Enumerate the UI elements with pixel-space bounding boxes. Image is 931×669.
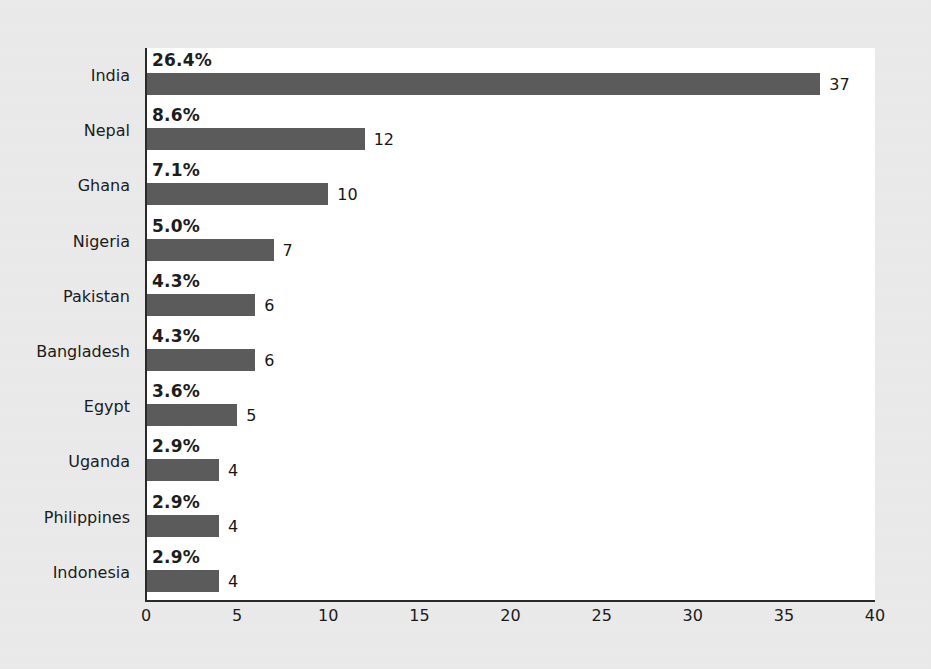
bar-percent-label: 26.4% (152, 50, 212, 70)
category-label-ghana: Ghana (0, 158, 138, 213)
category-label-text: Nepal (84, 121, 138, 140)
x-tick-label: 10 (318, 606, 338, 625)
bar-percent-label: 4.3% (152, 271, 200, 291)
bar-value-label: 10 (337, 185, 357, 204)
scanned-page: IndiaNepalGhanaNigeriaPakistanBangladesh… (0, 0, 931, 669)
category-label-nigeria: Nigeria (0, 214, 138, 269)
bar-value-label: 7 (283, 241, 293, 260)
bar-row: 7.1%10 (146, 158, 875, 213)
x-tick-label: 20 (500, 606, 520, 625)
category-label-philippines: Philippines (0, 490, 138, 545)
category-label-text: Ghana (78, 176, 138, 195)
bar-value-label: 6 (264, 296, 274, 315)
bar-percent-label: 5.0% (152, 216, 200, 236)
bar-percent-label: 7.1% (152, 160, 200, 180)
bar-uganda (146, 459, 219, 481)
category-label-uganda: Uganda (0, 434, 138, 489)
x-tick-label: 35 (774, 606, 794, 625)
bar-percent-label: 3.6% (152, 381, 200, 401)
y-axis-line (145, 48, 147, 601)
bar-row: 2.9%4 (146, 434, 875, 489)
category-label-text: India (91, 66, 138, 85)
bar-row: 5.0%7 (146, 214, 875, 269)
category-label-text: Egypt (84, 397, 138, 416)
bar-philippines (146, 515, 219, 537)
x-tick-label: 5 (232, 606, 242, 625)
x-axis-line (145, 600, 875, 602)
category-label-text: Pakistan (63, 287, 138, 306)
category-label-text: Uganda (68, 452, 138, 471)
x-tick-label: 40 (865, 606, 885, 625)
bar-percent-label: 2.9% (152, 436, 200, 456)
bar-percent-label: 8.6% (152, 105, 200, 125)
x-tick-label: 15 (409, 606, 429, 625)
bar-india (146, 73, 820, 95)
bar-bangladesh (146, 349, 255, 371)
bar-row: 4.3%6 (146, 324, 875, 379)
bar-row: 3.6%5 (146, 379, 875, 434)
bar-value-label: 37 (829, 75, 849, 94)
category-label-egypt: Egypt (0, 379, 138, 434)
category-label-bangladesh: Bangladesh (0, 324, 138, 379)
bar-value-label: 6 (264, 351, 274, 370)
category-label-text: Philippines (44, 508, 138, 527)
bar-value-label: 4 (228, 517, 238, 536)
category-label-text: Bangladesh (36, 342, 138, 361)
bar-pakistan (146, 294, 255, 316)
bar-percent-label: 4.3% (152, 326, 200, 346)
bar-indonesia (146, 570, 219, 592)
category-axis-labels: IndiaNepalGhanaNigeriaPakistanBangladesh… (0, 48, 138, 600)
x-axis-tick-labels: 0510152025303540 (146, 606, 875, 636)
x-tick-label: 0 (141, 606, 151, 625)
bar-value-label: 4 (228, 572, 238, 591)
bar-nigeria (146, 239, 274, 261)
category-label-nepal: Nepal (0, 103, 138, 158)
bar-series: 26.4%378.6%127.1%105.0%74.3%64.3%63.6%52… (146, 48, 875, 600)
bar-row: 2.9%4 (146, 490, 875, 545)
bar-value-label: 5 (246, 406, 256, 425)
category-label-indonesia: Indonesia (0, 545, 138, 600)
category-label-pakistan: Pakistan (0, 269, 138, 324)
bar-ghana (146, 183, 328, 205)
bar-egypt (146, 404, 237, 426)
bar-row: 4.3%6 (146, 269, 875, 324)
bar-percent-label: 2.9% (152, 547, 200, 567)
bar-nepal (146, 128, 365, 150)
category-label-text: Indonesia (53, 563, 138, 582)
bar-value-label: 12 (374, 130, 394, 149)
x-tick-label: 30 (683, 606, 703, 625)
bar-percent-label: 2.9% (152, 492, 200, 512)
bar-value-label: 4 (228, 461, 238, 480)
x-tick-label: 25 (591, 606, 611, 625)
bar-row: 8.6%12 (146, 103, 875, 158)
bar-row: 26.4%37 (146, 48, 875, 103)
bar-row: 2.9%4 (146, 545, 875, 600)
category-label-india: India (0, 48, 138, 103)
category-label-text: Nigeria (73, 232, 138, 251)
